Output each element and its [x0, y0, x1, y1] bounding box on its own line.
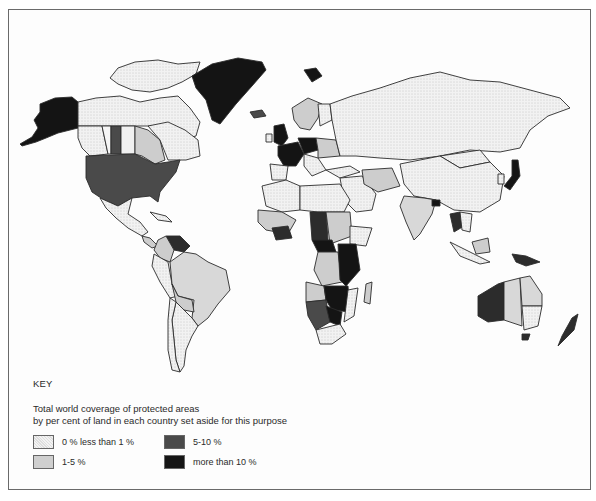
legend: 0 % less than 1 % 5-10 % 1-5 % more than… — [33, 435, 553, 469]
region-w-africa-dark — [272, 226, 292, 240]
key-description-line1: Total world coverage of protected areas — [33, 403, 553, 415]
region-n-africa-west — [262, 180, 300, 212]
legend-label: 1-5 % — [62, 457, 86, 467]
region-france — [278, 142, 304, 166]
region-iberia — [270, 164, 288, 180]
region-indochina — [460, 212, 472, 232]
swatch-gt10 — [164, 455, 185, 469]
region-new-zealand — [558, 314, 578, 346]
region-canada-islands — [110, 60, 200, 92]
region-tasmania — [522, 334, 530, 340]
region-ussr — [330, 72, 570, 160]
region-wa — [478, 282, 504, 322]
region-india — [400, 196, 436, 240]
region-nsw-vic — [522, 306, 542, 330]
region-east-africa — [338, 244, 360, 286]
region-mexico — [100, 198, 148, 236]
legend-item-lt1: 0 % less than 1 % — [33, 435, 164, 449]
region-borneo — [472, 238, 490, 254]
region-ireland — [266, 134, 272, 142]
region-alaska — [20, 97, 78, 146]
region-japan — [504, 160, 520, 190]
region-korea — [498, 174, 504, 184]
region-saskatchewan — [111, 126, 121, 154]
region-ethiopia — [350, 226, 372, 246]
region-png — [512, 254, 540, 266]
swatch-lt1 — [33, 435, 54, 449]
key-description: Total world coverage of protected areas … — [33, 403, 553, 427]
legend-label: more than 10 % — [193, 457, 257, 467]
key-title: KEY — [33, 378, 553, 389]
region-n-africa-east — [300, 184, 350, 212]
region-iceland — [250, 110, 266, 118]
region-uk — [274, 124, 288, 146]
region-nt-sa — [504, 278, 522, 326]
region-finland — [318, 104, 332, 126]
region-zaire — [314, 252, 342, 286]
region-madagascar — [364, 282, 372, 304]
legend-item-1-5: 1-5 % — [33, 455, 164, 469]
swatch-1-5 — [33, 455, 54, 469]
legend-item-5-10: 5-10 % — [164, 435, 364, 449]
region-scandinavia — [292, 98, 322, 130]
region-car — [312, 240, 336, 252]
region-svalbard — [304, 68, 322, 82]
region-chad — [310, 212, 328, 240]
legend-label: 5-10 % — [193, 437, 222, 447]
region-manitoba — [121, 126, 135, 154]
region-qld — [520, 276, 542, 306]
map-key: KEY Total world coverage of protected ar… — [33, 378, 553, 469]
region-nepal-bhutan — [432, 200, 440, 206]
swatch-5-10 — [164, 435, 185, 449]
legend-item-gt10: more than 10 % — [164, 455, 364, 469]
legend-label: 0 % less than 1 % — [62, 437, 134, 447]
region-namibia — [306, 300, 330, 330]
region-sudan — [326, 212, 352, 244]
region-caribbean — [150, 212, 172, 222]
key-description-line2: by per cent of land in each country set … — [33, 415, 553, 427]
